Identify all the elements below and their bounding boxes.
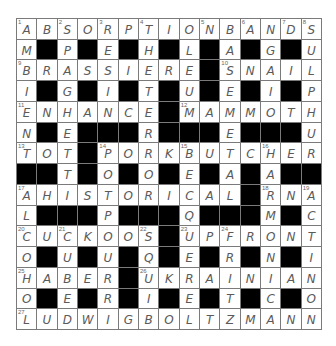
crossword-cell[interactable]: E	[180, 60, 199, 80]
crossword-cell[interactable]: 18R	[261, 185, 280, 205]
crossword-cell[interactable]: 5N	[200, 19, 219, 39]
crossword-cell[interactable]: R	[98, 289, 117, 309]
crossword-cell[interactable]: 24F	[220, 226, 239, 246]
crossword-cell[interactable]: I	[159, 19, 178, 39]
crossword-cell[interactable]: I	[302, 247, 321, 267]
crossword-cell[interactable]: N	[241, 268, 260, 288]
crossword-cell[interactable]: N	[37, 102, 56, 122]
crossword-cell[interactable]: U	[302, 123, 321, 143]
crossword-cell[interactable]: G	[261, 40, 280, 60]
crossword-cell[interactable]: 1A	[17, 19, 36, 39]
crossword-cell[interactable]: U	[302, 40, 321, 60]
crossword-cell[interactable]: 22S	[139, 226, 158, 246]
crossword-cell[interactable]: N	[281, 309, 300, 329]
crossword-cell[interactable]: R	[180, 268, 199, 288]
crossword-cell[interactable]: 7D	[281, 19, 300, 39]
crossword-cell[interactable]: O	[119, 185, 138, 205]
crossword-cell[interactable]: T	[220, 289, 239, 309]
crossword-cell[interactable]: R	[302, 143, 321, 163]
crossword-cell[interactable]: L	[220, 185, 239, 205]
crossword-cell[interactable]: R	[139, 123, 158, 143]
crossword-cell[interactable]: 21C	[58, 226, 77, 246]
crossword-cell[interactable]: 6A	[241, 19, 260, 39]
crossword-cell[interactable]: T	[139, 81, 158, 101]
crossword-cell[interactable]: E	[139, 102, 158, 122]
crossword-cell[interactable]: A	[281, 268, 300, 288]
crossword-cell[interactable]: E	[180, 289, 199, 309]
crossword-cell[interactable]: C	[241, 143, 260, 163]
crossword-cell[interactable]: U	[58, 247, 77, 267]
crossword-cell[interactable]: R	[98, 268, 117, 288]
crossword-cell[interactable]: U	[37, 309, 56, 329]
crossword-cell[interactable]: O	[98, 226, 117, 246]
crossword-cell[interactable]: A	[220, 40, 239, 60]
crossword-cell[interactable]: 16H	[261, 143, 280, 163]
crossword-cell[interactable]: Z	[220, 309, 239, 329]
crossword-cell[interactable]: E	[180, 164, 199, 184]
crossword-cell[interactable]: I	[98, 81, 117, 101]
crossword-cell[interactable]: O	[159, 309, 178, 329]
crossword-cell[interactable]: S	[78, 185, 97, 205]
crossword-cell[interactable]: Q	[180, 206, 199, 226]
crossword-cell[interactable]: H	[58, 102, 77, 122]
crossword-cell[interactable]: M	[17, 40, 36, 60]
crossword-cell[interactable]: E	[281, 143, 300, 163]
crossword-cell[interactable]: I	[281, 60, 300, 80]
crossword-cell[interactable]: A	[200, 185, 219, 205]
crossword-cell[interactable]: B	[58, 268, 77, 288]
crossword-cell[interactable]: M	[241, 102, 260, 122]
crossword-cell[interactable]: N	[281, 226, 300, 246]
crossword-cell[interactable]: B	[220, 19, 239, 39]
crossword-cell[interactable]: P	[98, 206, 117, 226]
crossword-cell[interactable]: 8S	[302, 19, 321, 39]
crossword-cell[interactable]: T	[220, 143, 239, 163]
crossword-cell[interactable]: N	[302, 309, 321, 329]
crossword-cell[interactable]: B	[37, 19, 56, 39]
crossword-cell[interactable]: C	[119, 102, 138, 122]
crossword-cell[interactable]: O	[180, 19, 199, 39]
crossword-cell[interactable]: 13T	[17, 143, 36, 163]
crossword-cell[interactable]: R	[37, 60, 56, 80]
crossword-cell[interactable]: A	[78, 102, 97, 122]
crossword-cell[interactable]: L	[302, 60, 321, 80]
crossword-cell[interactable]: P	[58, 40, 77, 60]
crossword-cell[interactable]: O	[78, 19, 97, 39]
crossword-cell[interactable]: T	[98, 185, 117, 205]
crossword-cell[interactable]: C	[302, 206, 321, 226]
crossword-cell[interactable]: S	[78, 60, 97, 80]
crossword-cell[interactable]: I	[261, 81, 280, 101]
crossword-cell[interactable]: 4T	[139, 19, 158, 39]
crossword-cell[interactable]: K	[159, 268, 178, 288]
crossword-cell[interactable]: U	[37, 226, 56, 246]
crossword-cell[interactable]: I	[17, 81, 36, 101]
crossword-cell[interactable]: O	[17, 289, 36, 309]
crossword-cell[interactable]: Q	[139, 247, 158, 267]
crossword-cell[interactable]: 9B	[17, 60, 36, 80]
crossword-cell[interactable]: L	[180, 40, 199, 60]
crossword-cell[interactable]: T	[200, 309, 219, 329]
crossword-cell[interactable]: 12M	[180, 102, 199, 122]
crossword-cell[interactable]: T	[302, 226, 321, 246]
crossword-cell[interactable]: K	[159, 143, 178, 163]
crossword-cell[interactable]: P	[200, 226, 219, 246]
crossword-cell[interactable]: O	[261, 102, 280, 122]
crossword-cell[interactable]: 26U	[139, 268, 158, 288]
crossword-cell[interactable]: H	[139, 40, 158, 60]
crossword-cell[interactable]: 11E	[17, 102, 36, 122]
crossword-cell[interactable]: E	[98, 40, 117, 60]
crossword-cell[interactable]: 17A	[17, 185, 36, 205]
crossword-cell[interactable]: O	[302, 289, 321, 309]
crossword-cell[interactable]: O	[119, 143, 138, 163]
crossword-cell[interactable]: E	[58, 123, 77, 143]
crossword-cell[interactable]: K	[78, 226, 97, 246]
crossword-cell[interactable]: I	[119, 60, 138, 80]
crossword-cell[interactable]: A	[58, 60, 77, 80]
crossword-cell[interactable]: E	[58, 289, 77, 309]
crossword-cell[interactable]: I	[58, 185, 77, 205]
crossword-cell[interactable]: N	[17, 123, 36, 143]
crossword-cell[interactable]: E	[220, 123, 239, 143]
crossword-cell[interactable]: N	[302, 268, 321, 288]
crossword-cell[interactable]: U	[180, 81, 199, 101]
crossword-cell[interactable]: G	[58, 81, 77, 101]
crossword-cell[interactable]: N	[261, 19, 280, 39]
